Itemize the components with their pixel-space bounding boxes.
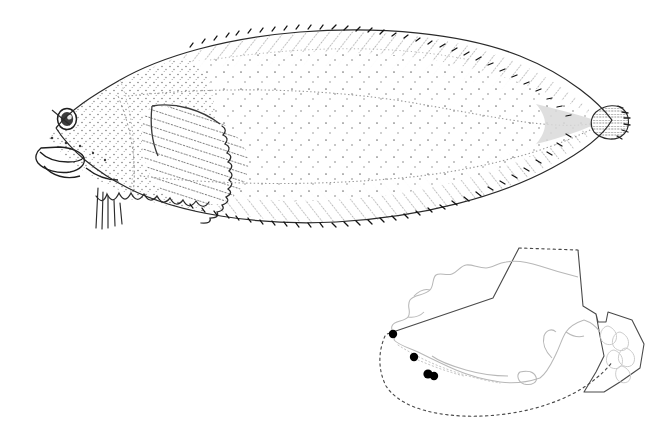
illustration-plate [0, 0, 669, 436]
occurrence-dot [430, 372, 438, 380]
occurrence-dot [389, 330, 397, 338]
distribution-map-svg [0, 0, 669, 436]
occurrence-dot [410, 353, 418, 361]
occurrence-dots [389, 330, 438, 380]
distribution-map-panel [0, 0, 669, 436]
eez-boundary-dotted [380, 248, 612, 416]
